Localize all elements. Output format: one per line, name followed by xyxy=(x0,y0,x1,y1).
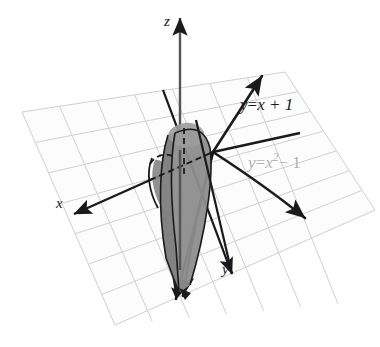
y-axis-label: y xyxy=(222,262,229,277)
line-equation-rhs: x + 1 xyxy=(257,95,293,114)
parabola-equation-lhs: y xyxy=(248,153,256,172)
line-equation-lhs: y xyxy=(240,95,248,114)
parabola-equation-operator: = xyxy=(256,153,266,172)
parabola-equation-label: y=x2− 1 xyxy=(248,152,301,171)
line-equation-label: y=x + 1 xyxy=(240,96,293,113)
parabola-equation-base: x xyxy=(265,153,273,172)
x-axis-label: x xyxy=(56,196,63,211)
parabola-equation-tail: − 1 xyxy=(278,153,300,172)
z-axis-label: z xyxy=(164,14,170,29)
figure-canvas: z x y y=x + 1 y=x2− 1 xyxy=(0,0,380,347)
line-equation-operator: = xyxy=(248,95,258,114)
math-figure-svg xyxy=(0,0,380,347)
